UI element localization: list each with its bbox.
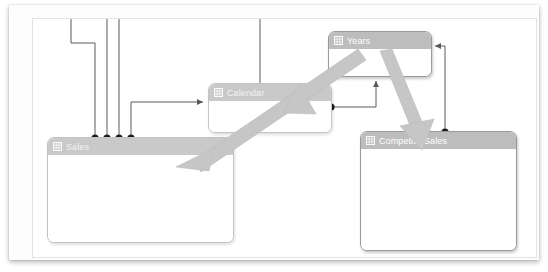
outer-frame: Sales Calendar — [9, 5, 539, 260]
filter-flow-arrowhead-competitorsales — [400, 119, 434, 150]
filter-flow-layer — [33, 19, 536, 257]
screenshot-root: Sales Calendar — [0, 0, 548, 272]
filter-flow-years-to-sales — [193, 49, 366, 172]
relationship-diagram-canvas[interactable]: Sales Calendar — [32, 18, 537, 258]
filter-flow-arrowhead-sales — [176, 148, 214, 171]
filter-flow-years-to-competitorsales — [380, 49, 425, 133]
